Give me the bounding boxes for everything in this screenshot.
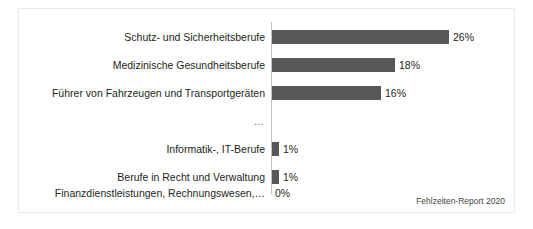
bar-category-label: Medizinische Gesundheitsberufe: [19, 53, 265, 77]
axis-break-ellipsis: …: [19, 109, 265, 133]
chart-plot-area: Schutz- und Sicherheitsberufe 26% Medizi…: [19, 9, 514, 212]
bar-category-label: Führer von Fahrzeugen und Transportgerät…: [19, 81, 265, 105]
bar-value-label: 16%: [385, 81, 406, 105]
bar-category-label: Schutz- und Sicherheitsberufe: [19, 25, 265, 49]
bar-value-label: 1%: [283, 137, 298, 161]
bar-segment: [272, 86, 381, 100]
bar-track: 26%: [272, 25, 510, 49]
bar-value-label: 26%: [453, 25, 474, 49]
chart-row: Medizinische Gesundheitsberufe 18%: [19, 53, 514, 77]
bar-category-label: Finanzdienstleistungen, Rechnungswesen,…: [19, 181, 265, 205]
bar-segment: [272, 58, 395, 72]
bar-track: 1%: [272, 137, 510, 161]
chart-row-break: …: [19, 109, 514, 133]
bar-value-label: 18%: [399, 53, 420, 77]
bar-track: 18%: [272, 53, 510, 77]
bar-segment: [272, 30, 449, 44]
bar-segment: [272, 142, 279, 156]
bar-value-label: 0%: [275, 181, 290, 205]
chart-figure: Schutz- und Sicherheitsberufe 26% Medizi…: [18, 8, 515, 213]
bar-category-label: Informatik-, IT-Berufe: [19, 137, 265, 161]
chart-row: Führer von Fahrzeugen und Transportgerät…: [19, 81, 514, 105]
chart-row: Informatik-, IT-Berufe 1%: [19, 137, 514, 161]
chart-row: Schutz- und Sicherheitsberufe 26%: [19, 25, 514, 49]
bar-track: 16%: [272, 81, 510, 105]
source-credit: Fehlzeiten-Report 2020: [416, 196, 505, 206]
